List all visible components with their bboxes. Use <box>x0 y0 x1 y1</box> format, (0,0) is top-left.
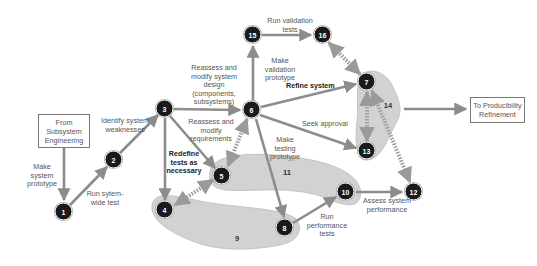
node-13: 13 <box>358 142 376 160</box>
region-11-label: 11 <box>283 168 291 177</box>
node-3: 3 <box>156 100 174 118</box>
label-reassess-design: Reassess and modify system design (compo… <box>183 64 245 107</box>
label-make-testing-prototype: Make testing prototype <box>265 136 305 162</box>
node-1: 1 <box>55 203 73 221</box>
node-2: 2 <box>105 151 123 169</box>
node-15: 15 <box>244 26 262 44</box>
label-seek-approval: Seek approval <box>302 120 348 129</box>
region-14-label: 14 <box>384 101 392 110</box>
node-6: 6 <box>243 101 261 119</box>
node-4: 4 <box>156 201 174 219</box>
node-16: 16 <box>314 26 332 44</box>
label-identify-weaknesses: Identify system weaknesses <box>98 117 152 134</box>
to-producibility-box: To Producibility Refinement <box>470 97 525 123</box>
label-run-system-wide-test: Run sytem-wide test <box>80 190 130 207</box>
label-redefine-tests: Redefine tests as necessary <box>166 150 202 176</box>
node-5: 5 <box>213 167 231 185</box>
node-7: 7 <box>358 73 376 91</box>
from-subsystem-box: From Subsystem Engineering <box>38 114 90 148</box>
label-refine-system: Refine system <box>286 82 335 91</box>
region-9-label: 9 <box>235 234 239 243</box>
label-make-system-prototype: Make system prototype <box>26 163 58 189</box>
label-assess-performance: Assess system performance <box>362 197 412 214</box>
node-8: 8 <box>276 219 294 237</box>
label-make-validation-prototype: Make validation prototype <box>256 57 304 83</box>
label-run-validation-tests: Run validation tests <box>265 17 315 34</box>
label-run-performance-tests: Run performance tests <box>306 213 348 239</box>
label-reassess-requirements: Reassess and modify requirements <box>188 118 234 144</box>
node-10: 10 <box>337 183 355 201</box>
